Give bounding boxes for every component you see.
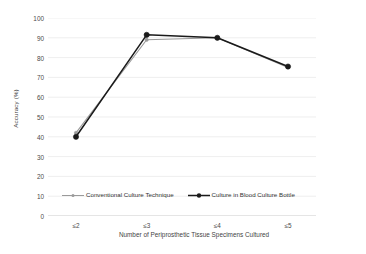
y-axis-title-text: Accuracy (%) <box>12 89 19 128</box>
y-tick-label: 20 <box>22 173 44 180</box>
y-tick-label: 100 <box>22 15 44 22</box>
data-point-marker <box>285 64 290 69</box>
series-line <box>76 38 288 133</box>
legend-marker-icon <box>188 192 210 199</box>
chart-figure: Accuracy (%) 0102030405060708090100 ≤2≤3… <box>0 0 366 254</box>
plot-area <box>48 18 316 216</box>
y-tick-label: 80 <box>22 54 44 61</box>
y-tick-label: 30 <box>22 153 44 160</box>
legend-label: Culture in Blood Culture Bottle <box>212 192 295 198</box>
legend-marker-icon <box>62 192 84 199</box>
legend-entry: Culture in Blood Culture Bottle <box>188 192 295 199</box>
chart-legend: Conventional Culture TechniqueCulture in… <box>62 192 295 199</box>
y-axis-title: Accuracy (%) <box>6 0 24 216</box>
data-series-layer <box>73 32 290 139</box>
y-tick-label: 50 <box>22 114 44 121</box>
chart-canvas <box>48 18 316 216</box>
x-tick-label: ≤2 <box>56 222 96 229</box>
data-point-marker <box>145 38 148 41</box>
data-point-marker <box>215 35 220 40</box>
y-tick-label: 0 <box>22 213 44 220</box>
y-tick-label: 90 <box>22 34 44 41</box>
x-tick-label: ≤5 <box>268 222 308 229</box>
legend-label: Conventional Culture Technique <box>86 192 174 198</box>
x-axis-title: Number of Periprosthetic Tissue Specimen… <box>0 231 366 238</box>
series-line <box>76 35 288 137</box>
y-tick-label: 40 <box>22 133 44 140</box>
data-point-marker <box>144 32 149 37</box>
x-axis-title-text: Number of Periprosthetic Tissue Specimen… <box>119 231 269 238</box>
y-tick-label: 10 <box>22 193 44 200</box>
legend-entry: Conventional Culture Technique <box>62 192 174 199</box>
x-tick-label: ≤4 <box>197 222 237 229</box>
y-tick-label: 70 <box>22 74 44 81</box>
y-tick-label: 60 <box>22 94 44 101</box>
x-tick-label: ≤3 <box>127 222 167 229</box>
data-point-marker <box>73 134 78 139</box>
